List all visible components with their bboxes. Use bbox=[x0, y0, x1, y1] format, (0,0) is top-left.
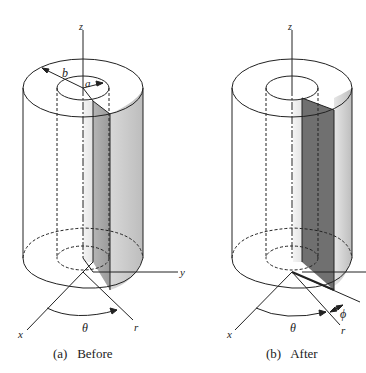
cut-plane bbox=[93, 101, 110, 290]
z-axis-label-b: z bbox=[287, 21, 292, 32]
x-axis-label-b: x bbox=[226, 328, 232, 340]
y-axis-label: y bbox=[179, 266, 185, 278]
r-axis-label-a: r bbox=[134, 321, 139, 333]
phi-label: ϕ bbox=[340, 307, 346, 321]
outer-radius-label: b bbox=[62, 66, 68, 80]
caption-a: (a) Before bbox=[53, 346, 113, 361]
theta-label-a: θ bbox=[82, 321, 88, 335]
theta-label-b: θ bbox=[290, 321, 296, 335]
inner-radius-label: a bbox=[85, 77, 91, 89]
z-axis-label-a: z bbox=[78, 21, 83, 32]
caption-b: (b) After bbox=[266, 346, 318, 361]
panel-b-after bbox=[232, 30, 366, 330]
panel-a-before bbox=[23, 30, 178, 330]
x-axis-label-a: x bbox=[17, 328, 23, 340]
figure-canvas: z b a y x θ r (a) Before bbox=[0, 0, 366, 373]
r-axis-label-b: r bbox=[341, 324, 346, 336]
